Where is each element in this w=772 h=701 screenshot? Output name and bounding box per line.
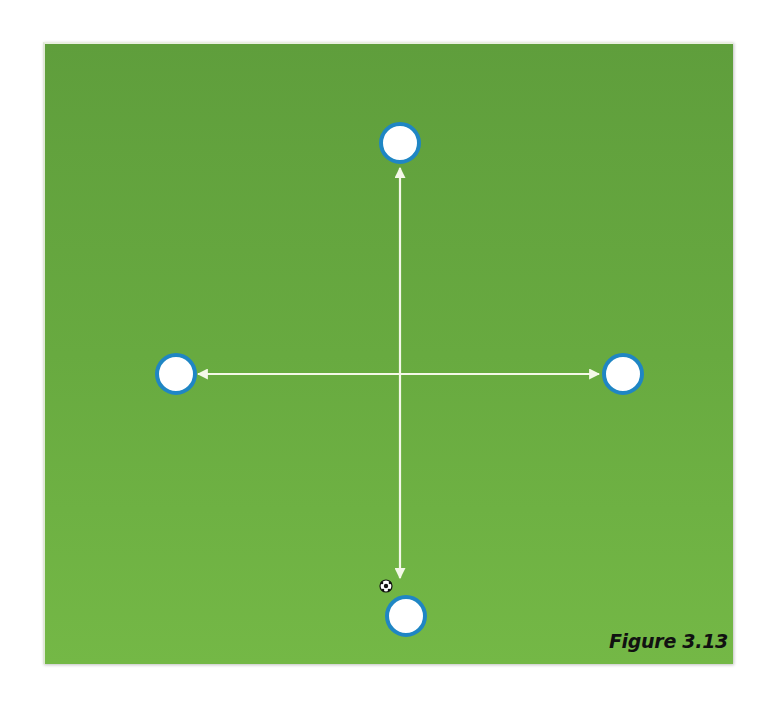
player-marker-right xyxy=(604,355,642,393)
player-marker-left xyxy=(157,355,195,393)
figure-caption: Figure 3.13 xyxy=(609,630,728,652)
drill-diagram xyxy=(0,0,772,701)
player-marker-top xyxy=(381,124,419,162)
player-marker-bottom xyxy=(387,597,425,635)
soccer-ball-icon xyxy=(380,580,392,592)
